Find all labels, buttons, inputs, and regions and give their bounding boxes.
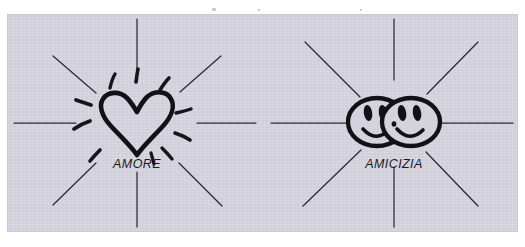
amore-starburst-rays (14, 19, 256, 227)
amore-dash-e (175, 133, 190, 140)
illustration-artwork (0, 0, 525, 247)
amore-dash-n (136, 69, 138, 82)
amicizia-label: AMICIZIA (365, 157, 422, 171)
amore-ray-nw (53, 56, 96, 93)
amicizia-ray-nw (305, 42, 360, 97)
smiley-right-nose-dot (392, 121, 397, 127)
scan-speck (212, 8, 216, 11)
smiley-face-right (382, 98, 440, 146)
amicizia-ray-se (426, 152, 478, 206)
amore-ray-ne (180, 56, 221, 92)
amore-ray-sw (53, 163, 96, 205)
amore-dash-w (74, 121, 90, 129)
scan-speck (258, 9, 260, 11)
amore-dash-se (162, 148, 172, 159)
amore-dash-ene (176, 109, 191, 113)
scanned-page: AMORE AMICIZIA (0, 0, 525, 247)
amicizia-ray-sw (303, 150, 361, 206)
amore-dash-wnw (76, 100, 91, 105)
amore-dash-sw (90, 150, 100, 161)
amicizia-ray-ne (427, 42, 478, 94)
amicizia-symbol-group (271, 19, 513, 227)
scan-speck (360, 9, 362, 11)
amore-dash-nnw (110, 74, 115, 88)
heart-icon (101, 92, 173, 155)
page-top-margin (0, 0, 525, 13)
smiley-right-head (382, 98, 440, 146)
amore-dash-nne (160, 78, 169, 90)
amore-symbol-group (14, 19, 256, 227)
amore-label: AMORE (113, 157, 161, 171)
amore-ray-se (179, 163, 222, 206)
